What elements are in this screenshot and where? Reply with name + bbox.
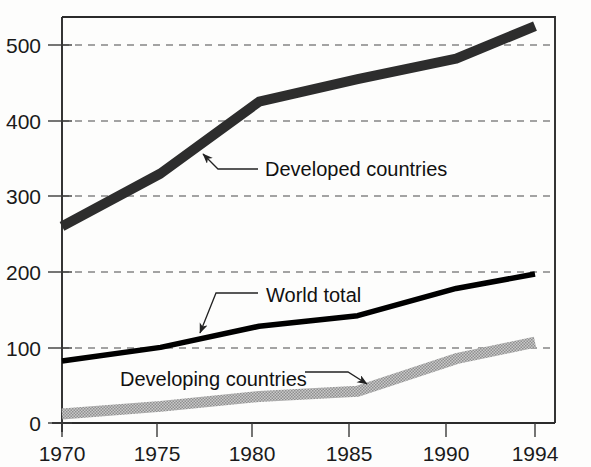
y-tick-label-300: 300	[6, 185, 41, 208]
chart-figure: 500 400 300 200 100 0 1970 1975 1980 198…	[0, 0, 591, 467]
y-tick-label-500: 500	[6, 34, 41, 57]
x-tick-label-1985: 1985	[326, 442, 373, 465]
y-tick-label-200: 200	[6, 261, 41, 284]
x-tick-label-1990: 1990	[423, 442, 470, 465]
developing-countries-label: Developing countries	[120, 368, 307, 390]
y-tick-label-400: 400	[6, 110, 41, 133]
world-total-label: World total	[266, 284, 361, 306]
x-tick-label-1975: 1975	[134, 442, 181, 465]
y-tick-label-100: 100	[6, 337, 41, 360]
y-tick-label-0: 0	[29, 412, 41, 435]
x-tick-label-1980: 1980	[229, 442, 276, 465]
x-tick-label-1970: 1970	[39, 442, 86, 465]
x-tick-label-1994: 1994	[512, 442, 559, 465]
developed-countries-label: Developed countries	[265, 158, 447, 180]
